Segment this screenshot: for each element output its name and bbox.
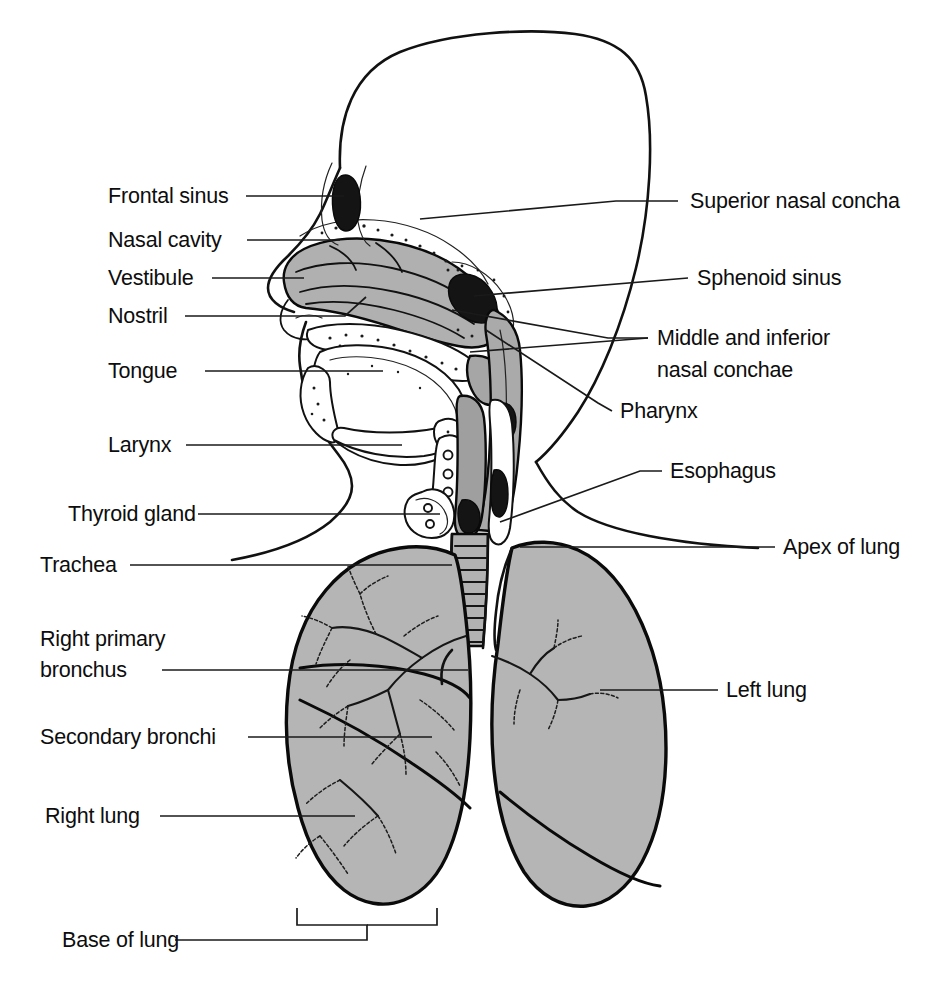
- label-sphenoid-sinus: Sphenoid sinus: [697, 266, 841, 290]
- esophagus-tube: [489, 400, 514, 545]
- anatomy-diagram: Frontal sinus Nasal cavity Vestibule Nos…: [0, 0, 952, 981]
- label-right-primary-bronchus-line2: bronchus: [40, 658, 127, 682]
- label-trachea: Trachea: [40, 553, 117, 577]
- left-lung-body: [492, 542, 666, 906]
- right-lung-body: [286, 547, 470, 904]
- label-frontal-sinus: Frontal sinus: [108, 184, 228, 208]
- leader-superior-nasal-concha: [420, 201, 678, 219]
- label-esophagus: Esophagus: [670, 459, 776, 483]
- label-nasal-cavity: Nasal cavity: [108, 228, 222, 252]
- label-middle-inferior-nasal-conchae-line1: Middle and inferior: [657, 326, 830, 350]
- label-right-lung: Right lung: [45, 804, 140, 828]
- label-vestibule: Vestibule: [108, 266, 193, 290]
- label-tongue: Tongue: [108, 359, 177, 383]
- label-superior-nasal-concha: Superior nasal concha: [690, 189, 900, 213]
- label-thyroid-gland: Thyroid gland: [68, 502, 196, 526]
- leader-sphenoid-sinus: [474, 278, 688, 296]
- label-right-primary-bronchus-line1: Right primary: [40, 627, 166, 651]
- label-secondary-bronchi: Secondary bronchi: [40, 725, 216, 749]
- label-pharynx: Pharynx: [620, 399, 698, 423]
- left-label-group: Frontal sinus Nasal cavity Vestibule Nos…: [40, 184, 228, 952]
- label-larynx: Larynx: [108, 433, 172, 457]
- label-base-of-lung: Base of lung: [62, 928, 179, 952]
- laryngeal-airway: [455, 396, 486, 538]
- frontal-sinus-cavity: [321, 163, 370, 246]
- label-nostril: Nostril: [108, 304, 168, 328]
- leader-base-of-lung-bracket: [367, 908, 437, 925]
- label-left-lung: Left lung: [726, 678, 807, 702]
- label-apex-of-lung: Apex of lung: [783, 535, 900, 559]
- leader-base-of-lung: [175, 908, 367, 940]
- label-middle-inferior-nasal-conchae-line2: nasal conchae: [657, 358, 793, 382]
- respiratory-system-figure: Frontal sinus Nasal cavity Vestibule Nos…: [0, 0, 952, 981]
- right-label-group: Superior nasal concha Sphenoid sinus Mid…: [620, 189, 900, 702]
